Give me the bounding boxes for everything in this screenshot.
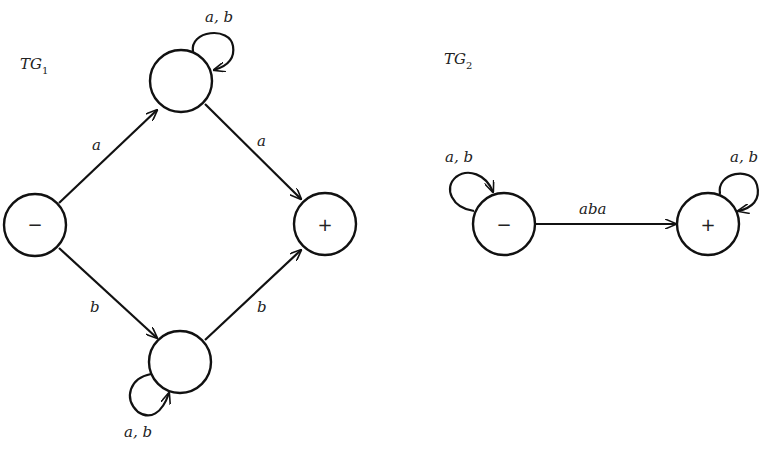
- edge-bottom-to-final-b: [205, 250, 301, 340]
- graph-title-tg2: TG2: [444, 50, 472, 71]
- loop-label-top: a, b: [205, 8, 233, 26]
- loop-label-start: a, b: [445, 148, 473, 166]
- graph-tg1: TG1 a a b b a, b a, b − +: [4, 8, 356, 441]
- state-start: −: [4, 194, 66, 256]
- graph-tg2: TG2 a, b aba a, b − +: [444, 50, 758, 255]
- state-bottom: [149, 331, 211, 393]
- final-state-label: +: [317, 214, 332, 235]
- edge-label-start-final: aba: [579, 200, 607, 218]
- transition-graphs-diagram: TG1 a a b b a, b a, b − + TG2: [0, 0, 769, 474]
- state-final: +: [294, 193, 356, 255]
- state-top: [150, 50, 212, 112]
- edge-start-to-bottom-b: [59, 248, 157, 338]
- state-start: −: [473, 193, 535, 255]
- final-state-label: +: [700, 214, 715, 235]
- edge-label-start-bottom: b: [90, 298, 100, 316]
- edge-label-top-final: a: [257, 132, 266, 150]
- edge-label-start-top: a: [92, 136, 101, 154]
- edge-start-to-top-a: [59, 110, 157, 203]
- loop-label-bottom: a, b: [124, 423, 152, 441]
- start-state-label: −: [496, 214, 511, 235]
- state-final: +: [677, 193, 739, 255]
- loop-label-final: a, b: [730, 148, 758, 166]
- edge-label-bottom-final: b: [257, 298, 267, 316]
- graph-title-tg1: TG1: [20, 55, 48, 76]
- start-state-label: −: [27, 214, 42, 235]
- edge-top-to-final-a: [205, 104, 301, 199]
